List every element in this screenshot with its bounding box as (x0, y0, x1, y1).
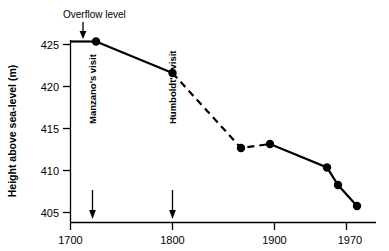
x-tick-label-1700: 1700 (58, 234, 82, 246)
y-tick-label-420: 420 (41, 81, 59, 93)
data-point (323, 163, 331, 171)
x-tick-label-1900: 1900 (262, 234, 286, 246)
y-tick-label-405: 405 (41, 207, 59, 219)
data-point (237, 144, 245, 152)
humboldt-visit-label: Humboldt's visit (167, 50, 178, 124)
manzano-visit-label: Manzano's visit (87, 53, 98, 124)
data-point (334, 181, 342, 189)
y-tick-label-425: 425 (41, 39, 59, 51)
y-axis-title: Height above sea-level (m) (6, 65, 18, 197)
x-tick-label-1800: 1800 (160, 234, 184, 246)
data-point (92, 37, 100, 45)
x-tick-label-1970: 1970 (338, 234, 362, 246)
data-point (266, 140, 274, 148)
y-tick-label-410: 410 (41, 165, 59, 177)
y-tick-label-415: 415 (41, 123, 59, 135)
data-point (353, 202, 361, 210)
lake-level-line-chart: 425 420 415 410 405 Height above sea-lev… (0, 0, 389, 251)
chart-figure: 425 420 415 410 405 Height above sea-lev… (0, 0, 389, 251)
overflow-level-label: Overflow level (63, 9, 126, 20)
